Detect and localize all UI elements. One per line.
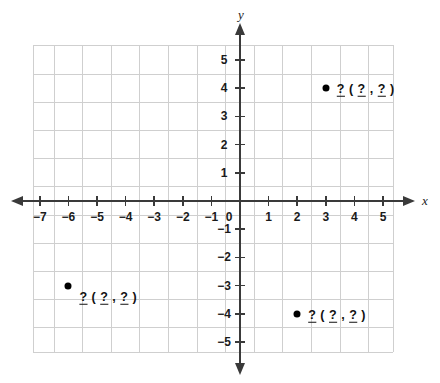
x-axis-tick-label: 2 — [294, 211, 301, 223]
x-axis-name: x — [422, 194, 428, 207]
x-axis-tick-label: −1 — [205, 211, 219, 223]
open-paren: ( — [348, 82, 355, 96]
x-axis-tick-label: −5 — [90, 211, 104, 223]
y-coordinate-blank[interactable]: ? — [117, 290, 131, 303]
x-axis-arrow-left — [11, 196, 23, 206]
x-coordinate-blank[interactable]: ? — [355, 83, 369, 96]
x-coordinate-blank[interactable]: ? — [97, 290, 111, 303]
point-answer-blanks-1[interactable]: ?(?,?) — [334, 83, 396, 96]
point-name-blank[interactable]: ? — [334, 83, 348, 96]
x-axis-tick-label: −6 — [62, 211, 76, 223]
y-axis-tick-label: −2 — [217, 251, 231, 263]
x-axis-tick-label: −4 — [119, 211, 133, 223]
y-axis-tick-label: 3 — [221, 110, 228, 122]
point-answer-blanks-2[interactable]: ?(?,?) — [76, 290, 138, 303]
y-coordinate-blank[interactable]: ? — [375, 83, 389, 96]
origin-label: 0 — [226, 211, 233, 223]
close-paren: ) — [389, 82, 396, 96]
point-name-blank[interactable]: ? — [76, 290, 90, 303]
point-answer-blanks-3[interactable]: ?(?,?) — [305, 309, 367, 322]
x-axis-tick-label: −7 — [33, 211, 47, 223]
y-axis-arrow-down — [235, 363, 245, 375]
y-axis-tick-label: −4 — [217, 308, 231, 320]
x-axis-tick-label: 5 — [380, 211, 387, 223]
y-axis-tick-label: −3 — [217, 280, 231, 292]
coordinate-plane-figure: −7−6−5−4−3−2−11234554321−1−2−3−4−50xy?(?… — [0, 0, 440, 383]
open-paren: ( — [91, 289, 98, 303]
open-paren: ( — [319, 308, 326, 322]
y-axis-tick-label: −1 — [217, 223, 231, 235]
x-axis-tick-label: −3 — [147, 211, 161, 223]
x-axis-tick-label: 3 — [322, 211, 329, 223]
y-axis-tick-label: 5 — [221, 54, 228, 66]
x-coordinate-blank[interactable]: ? — [326, 309, 340, 322]
close-paren: ) — [360, 308, 367, 322]
x-axis-tick-label: 4 — [351, 211, 358, 223]
y-axis-tick-label: 1 — [221, 167, 228, 179]
y-coordinate-blank[interactable]: ? — [346, 309, 360, 322]
close-paren: ) — [131, 289, 138, 303]
y-axis-tick-label: 4 — [221, 82, 228, 94]
y-axis-arrow-up — [235, 23, 245, 35]
y-axis-name: y — [238, 8, 244, 21]
y-axis-tick-label: −5 — [217, 336, 231, 348]
x-axis-arrow-right — [403, 196, 415, 206]
y-axis-tick-label: 2 — [221, 139, 228, 151]
plotted-point-1 — [322, 85, 329, 92]
plotted-point-2 — [65, 282, 72, 289]
x-axis-tick-label: −2 — [176, 211, 190, 223]
x-axis-tick-label: 1 — [265, 211, 272, 223]
plotted-point-3 — [294, 310, 301, 317]
point-name-blank[interactable]: ? — [305, 309, 319, 322]
